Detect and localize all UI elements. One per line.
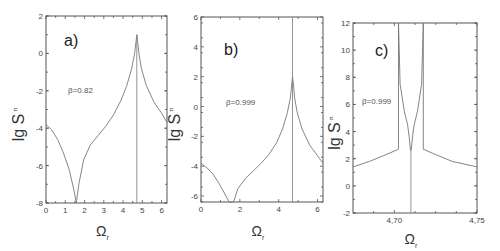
data-curve <box>46 35 167 203</box>
x-tick-label: 5 <box>140 206 145 215</box>
y-tick-label: 6 <box>346 100 351 109</box>
y-tick-label: -2 <box>36 87 44 96</box>
data-curve <box>423 23 477 167</box>
y-tick-label: 2 <box>39 12 44 21</box>
x-axis-label: Ωr <box>405 231 418 249</box>
x-tick-label: 2 <box>238 205 243 214</box>
y-tick-label: -6 <box>36 162 44 171</box>
y-tick-label: -2 <box>343 209 351 218</box>
x-tick-label: 4,70 <box>387 216 403 225</box>
x-tick-label: 3 <box>102 206 107 215</box>
y-tick-label: 6 <box>194 13 199 22</box>
x-axis-label: Ωr <box>96 223 109 241</box>
y-tick-label: -8 <box>36 199 44 208</box>
x-tick-label: 4 <box>121 206 126 215</box>
x-tick-label: 6 <box>159 206 164 215</box>
panel-label: c) <box>375 42 388 59</box>
x-tick-label: 4,75 <box>469 216 485 225</box>
y-axis-label: lg Sπ <box>10 108 27 142</box>
beta-annotation: β=0.999 <box>226 98 256 107</box>
y-tick-label: 0 <box>346 182 351 191</box>
y-tick-label: 12 <box>341 19 350 28</box>
x-axis-label: Ωr <box>252 223 265 241</box>
x-tick-label: 6 <box>315 205 320 214</box>
y-tick-label: -6 <box>191 192 199 201</box>
data-curve <box>411 23 423 151</box>
x-tick-label: 2 <box>82 206 87 215</box>
beta-annotation: β=0.82 <box>68 86 93 95</box>
panel-b: 6420-2-4-60246b)β=0.999lg SπΩr <box>166 13 323 241</box>
panel-label: b) <box>224 41 238 58</box>
y-tick-label: -4 <box>191 162 199 171</box>
plot-frame <box>201 17 323 202</box>
y-axis-label: lg Sπ <box>326 116 343 150</box>
x-tick-label: 0 <box>199 205 204 214</box>
panel-a: 20-2-4-6-80123456a)β=0.82lg SπΩr <box>10 12 167 241</box>
y-tick-label: -4 <box>36 124 44 133</box>
plot-frame <box>353 23 477 213</box>
y-axis-label: lg Sπ <box>166 108 183 142</box>
data-curve <box>399 23 411 151</box>
panel-label: a) <box>64 32 78 49</box>
y-tick-label: -2 <box>191 132 199 141</box>
y-tick-label: 0 <box>194 103 199 112</box>
y-tick-label: 8 <box>346 73 351 82</box>
beta-annotation: β=0.999 <box>362 97 392 106</box>
y-tick-label: 2 <box>346 155 351 164</box>
y-tick-label: 4 <box>194 43 199 52</box>
data-curve <box>201 77 323 202</box>
x-tick-label: 0 <box>44 206 49 215</box>
x-tick-label: 1 <box>63 206 68 215</box>
chart-figure: 20-2-4-6-80123456a)β=0.82lg SπΩr6420-2-4… <box>0 0 500 251</box>
y-tick-label: 4 <box>346 128 351 137</box>
x-tick-label: 4 <box>276 205 281 214</box>
y-tick-label: 0 <box>39 49 44 58</box>
y-tick-label: 2 <box>194 73 199 82</box>
y-tick-label: 10 <box>341 46 350 55</box>
panel-c: 121086420-24,704,75c)β=0.999lg SπΩr <box>326 19 485 249</box>
